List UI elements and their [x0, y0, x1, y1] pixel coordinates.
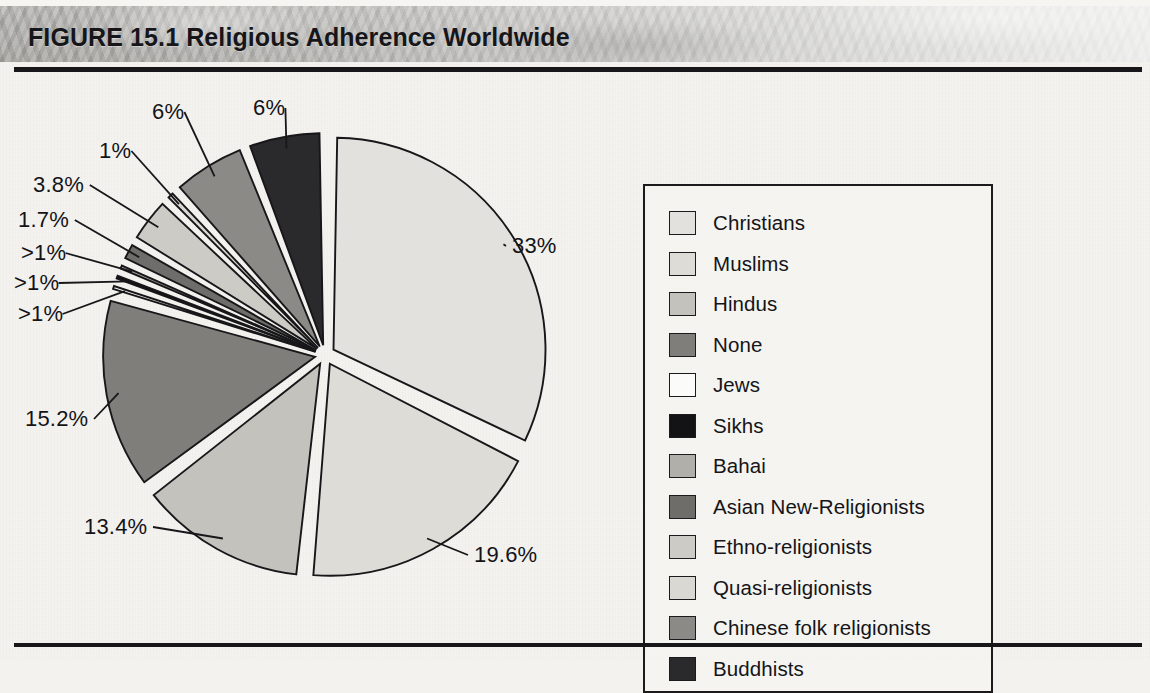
legend-item-label: Bahai [713, 454, 766, 478]
legend-item-list: ChristiansMuslimsHindusNoneJewsSikhsBaha… [669, 203, 931, 689]
legend-swatch [669, 292, 696, 316]
pie-value-label: 15.2% [25, 406, 88, 432]
pie-value-label: 1.7% [18, 207, 69, 233]
legend-swatch [669, 454, 696, 478]
leader-line [90, 185, 159, 227]
legend-item: Ethno-religionists [669, 527, 931, 568]
legend-item: None [669, 325, 931, 366]
leader-line [75, 220, 139, 257]
legend-item-label: Christians [713, 211, 805, 235]
bottom-divider-rule [14, 643, 1142, 647]
legend-item: Bahai [669, 446, 931, 487]
legend-swatch [669, 657, 696, 681]
leader-line [285, 108, 286, 149]
legend-item-label: Asian New-Religionists [713, 495, 925, 519]
pie-value-label: 6% [253, 95, 285, 121]
pie-value-label: 13.4% [84, 514, 147, 540]
pie-value-label: 1% [99, 138, 131, 164]
title-divider-rule [14, 67, 1142, 72]
legend-item: Hindus [669, 284, 931, 325]
leader-line [184, 112, 214, 176]
pie-value-label: 6% [152, 99, 184, 125]
legend-item: Asian New-Religionists [669, 487, 931, 528]
legend-item-label: Quasi-religionists [713, 576, 872, 600]
legend-item-label: Sikhs [713, 414, 764, 438]
legend-swatch [669, 211, 696, 235]
leader-line [59, 281, 129, 283]
pie-value-label: >1% [18, 301, 63, 327]
legend-swatch [669, 495, 696, 519]
legend-swatch [669, 535, 696, 559]
pie-value-label: >1% [21, 240, 66, 266]
legend-item-label: Buddhists [713, 657, 804, 681]
legend-item-label: Ethno-religionists [713, 535, 872, 559]
pie-value-label: 3.8% [33, 172, 84, 198]
legend-swatch [669, 333, 696, 357]
legend-item: Buddhists [669, 649, 931, 690]
legend-swatch [669, 414, 696, 438]
legend-item: Jews [669, 365, 931, 406]
page-title: FIGURE 15.1 Religious Adherence Worldwid… [28, 23, 570, 52]
pie-value-label: 33% [512, 233, 557, 259]
leader-line [66, 253, 133, 272]
pie-slice-group [103, 133, 545, 576]
legend-swatch [669, 252, 696, 276]
legend-item: Quasi-religionists [669, 568, 931, 609]
legend: ChristiansMuslimsHindusNoneJewsSikhsBaha… [643, 184, 993, 693]
legend-swatch [669, 616, 696, 640]
legend-item-label: None [713, 333, 762, 357]
legend-item-label: Muslims [713, 252, 789, 276]
leader-line [131, 151, 179, 204]
chart-area: 33%19.6%13.4%15.2%>1%>1%>1%1.7%3.8%1%6%6… [0, 76, 1150, 636]
legend-item: Muslims [669, 244, 931, 285]
pie-value-label: 19.6% [474, 542, 537, 568]
legend-item: Christians [669, 203, 931, 244]
legend-item-label: Chinese folk religionists [713, 616, 931, 640]
legend-swatch [669, 576, 696, 600]
legend-swatch [669, 373, 696, 397]
legend-item-label: Jews [713, 373, 760, 397]
pie-value-label: >1% [14, 270, 59, 296]
legend-item-label: Hindus [713, 292, 777, 316]
legend-item: Sikhs [669, 406, 931, 447]
